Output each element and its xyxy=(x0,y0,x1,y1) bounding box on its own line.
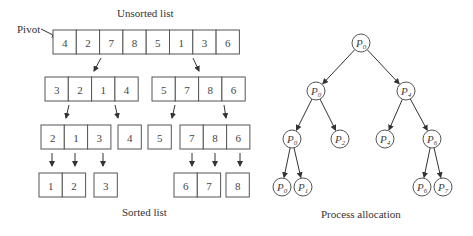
process-node-l4b: P1 xyxy=(294,178,312,196)
process-allocation-title: Process allocation xyxy=(321,208,401,220)
tree-edge-arrow xyxy=(320,99,336,130)
list-cell-value: 7 xyxy=(206,180,212,192)
tree-edge-arrow xyxy=(410,99,427,130)
tree-edge-arrow xyxy=(424,148,430,177)
down-arrow-icon xyxy=(172,105,175,118)
list-cell-value: 6 xyxy=(183,180,189,192)
list-cell-value: 4 xyxy=(124,84,130,96)
list-cell-value: 6 xyxy=(231,84,237,96)
list-group: 8 xyxy=(226,173,249,197)
process-node-l2a: P0 xyxy=(307,82,325,100)
list-cell-value: 3 xyxy=(97,132,103,144)
list-cell-value: 2 xyxy=(71,180,77,192)
list-cell-value: 7 xyxy=(184,84,190,96)
list-cell-value: 6 xyxy=(236,132,242,144)
list-cell-value: 2 xyxy=(77,84,83,96)
tree-edge-arrow xyxy=(367,50,399,84)
partition-arrows xyxy=(52,58,240,166)
list-group: 3214 xyxy=(45,77,138,101)
tree-edge-arrow xyxy=(434,148,441,177)
list-cell-value: 8 xyxy=(208,84,214,96)
list-cell-value: 1 xyxy=(48,180,54,192)
list-cell-value: 3 xyxy=(54,84,60,96)
list-cell-value: 8 xyxy=(132,37,138,49)
tree-edge-arrow xyxy=(284,148,290,177)
list-cell-value: 3 xyxy=(202,37,208,49)
list-cell-value: 8 xyxy=(212,132,218,144)
list-cell-value: 2 xyxy=(85,37,91,49)
list-group: 67 xyxy=(174,173,221,197)
tree-edge-arrow xyxy=(389,99,402,130)
process-node-l4d: P7 xyxy=(434,178,452,196)
list-cell-value: 7 xyxy=(189,132,195,144)
list-cell-value: 5 xyxy=(155,37,161,49)
list-cell-value: 1 xyxy=(101,84,107,96)
tree-edge-arrow xyxy=(323,50,355,84)
list-cell-value: 7 xyxy=(109,37,115,49)
process-node-root: P0 xyxy=(352,34,370,52)
quicksort-lists: 427851363214578621345786123678 xyxy=(39,30,250,197)
sorted-list-title: Sorted list xyxy=(122,206,167,218)
process-node-l2b: P4 xyxy=(397,82,415,100)
row-level-2: 21345786 xyxy=(41,125,250,149)
list-cell-value: 2 xyxy=(50,132,56,144)
list-group: 4 xyxy=(118,125,141,149)
list-cell-value: 1 xyxy=(178,37,184,49)
process-node-l3b: P2 xyxy=(331,130,349,148)
row-sorted: 123678 xyxy=(39,173,249,197)
list-group: 213 xyxy=(41,125,111,149)
process-tree-edges xyxy=(284,50,441,178)
pivot-label: Pivot xyxy=(17,23,40,35)
list-group: 3 xyxy=(94,173,117,197)
list-cell-value: 6 xyxy=(225,37,231,49)
list-group: 5 xyxy=(148,125,171,149)
row-level-1: 32145786 xyxy=(45,77,245,101)
process-node-l4c: P6 xyxy=(413,178,431,196)
list-cell-value: 4 xyxy=(127,132,133,144)
row-unsorted: 42785136 xyxy=(53,30,239,54)
process-node-l3c: P4 xyxy=(376,130,394,148)
list-group: 42785136 xyxy=(53,30,239,54)
unsorted-list-title: Unsorted list xyxy=(117,7,174,19)
list-group: 12 xyxy=(39,173,86,197)
quicksort-process-diagram: Unsorted list Pivot 42785136321457862134… xyxy=(0,0,473,236)
down-arrow-icon xyxy=(115,105,118,118)
tree-edge-arrow xyxy=(296,99,312,130)
list-cell-value: 3 xyxy=(103,180,109,192)
list-cell-value: 1 xyxy=(73,132,79,144)
process-node-l3a: P0 xyxy=(283,130,301,148)
list-group: 5786 xyxy=(152,77,245,101)
process-node-l3d: P6 xyxy=(423,130,441,148)
down-arrow-icon xyxy=(94,58,101,71)
list-cell-value: 4 xyxy=(62,37,68,49)
list-group: 786 xyxy=(180,125,250,149)
list-cell-value: 5 xyxy=(157,132,163,144)
down-arrow-icon xyxy=(193,58,199,71)
tree-edge-arrow xyxy=(294,148,301,177)
down-arrow-icon xyxy=(66,105,69,118)
process-node-l4a: P0 xyxy=(273,178,291,196)
down-arrow-icon xyxy=(224,105,226,118)
list-cell-value: 5 xyxy=(161,84,167,96)
list-cell-value: 8 xyxy=(235,180,241,192)
